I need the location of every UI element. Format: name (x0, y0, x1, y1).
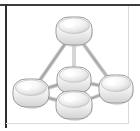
graph-node-left[interactable]: Left node (13, 79, 50, 109)
graph-svg: apex to leftapex to rightapex to centera… (0, 0, 140, 131)
graph-node-right[interactable]: Right node (99, 75, 134, 105)
thumbnail-frame: apex to leftapex to rightapex to centera… (0, 0, 140, 131)
graph-node-apex[interactable]: Apex node (56, 17, 93, 47)
graph-node-bottom-front[interactable]: Bottom front node (56, 91, 93, 121)
nodes-layer: Apex nodeCenter nodeBottom front nodeLef… (13, 17, 134, 121)
node-graph-diagram: apex to leftapex to rightapex to centera… (0, 0, 140, 131)
